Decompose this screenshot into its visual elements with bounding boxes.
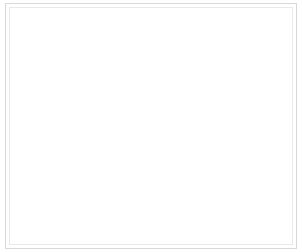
legend-item <box>172 44 200 60</box>
legend-swatch-sterberate <box>172 51 194 54</box>
legend-item <box>172 60 200 76</box>
chart-figure <box>0 0 302 252</box>
plot-area <box>0 0 302 252</box>
chart-canvas <box>0 0 302 252</box>
chart-legend <box>172 44 200 76</box>
legend-swatch-geburtenrate <box>172 67 194 70</box>
